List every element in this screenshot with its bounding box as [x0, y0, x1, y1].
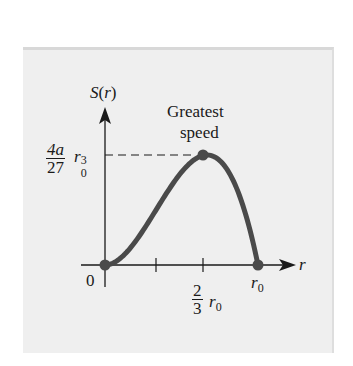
- r0-label: r0: [251, 274, 264, 291]
- speed-curve: [105, 155, 258, 265]
- ymax-r0-cubed: r30: [74, 148, 91, 165]
- xpeak-fraction: 2 3: [192, 282, 203, 317]
- greatest-speed-point: [198, 150, 209, 161]
- ymax-fraction: 4a 27: [46, 141, 65, 176]
- annotation-speed: speed: [180, 124, 219, 141]
- origin-label: 0: [86, 272, 95, 289]
- chart-canvas: [0, 0, 353, 366]
- r0-point: [253, 260, 264, 271]
- origin-point: [100, 260, 111, 271]
- xpeak-r0: r0: [209, 293, 222, 310]
- y-axis-label: S(r): [90, 84, 116, 101]
- annotation-greatest: Greatest: [167, 103, 224, 120]
- x-axis-label: r: [299, 256, 306, 273]
